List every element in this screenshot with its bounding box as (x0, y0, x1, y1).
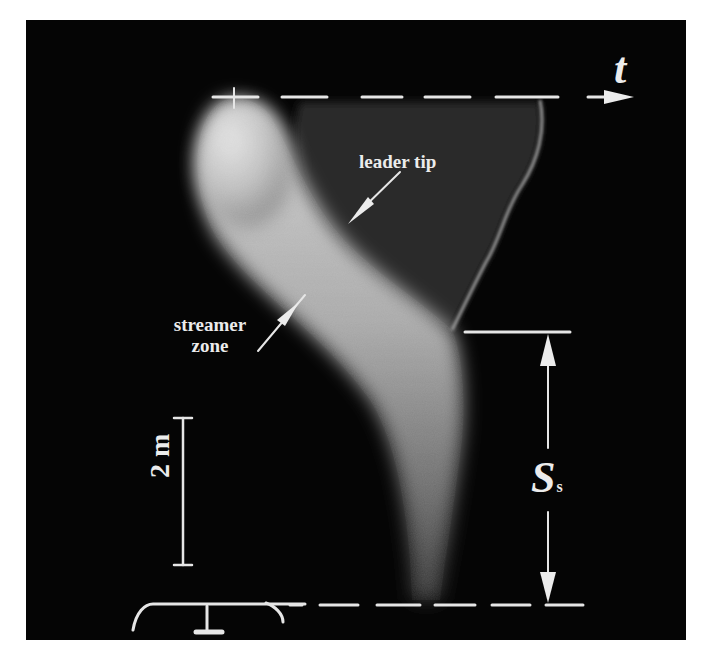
electrode-icon (133, 603, 305, 632)
ss-up-arrowhead-icon (540, 334, 556, 366)
leader-tip-label: leader tip (359, 152, 436, 171)
streamer-length-symbol: S (531, 453, 555, 502)
time-axis-label: t (614, 47, 626, 91)
streamer-length-label: Ss (531, 456, 563, 500)
discharge-image-overlay (0, 0, 710, 661)
streamer-length-subscript: s (556, 478, 562, 495)
streamer-zone-label-line2: zone (160, 335, 260, 356)
scale-bar (174, 418, 192, 565)
streamer-zone-label-line1: streamer (160, 314, 260, 335)
streak-photograph-figure: t leader tip streamer zone 2 m Ss (0, 0, 710, 661)
ss-down-arrowhead-icon (540, 572, 556, 603)
scale-bar-label: 2 m (146, 434, 174, 478)
streamer-zone-label: streamer zone (160, 314, 260, 356)
